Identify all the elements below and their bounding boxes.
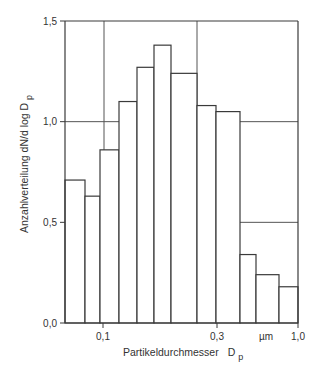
x-axis-title-text: Partikeldurchmesser — [123, 346, 219, 358]
y-tick-label: 0,0 — [43, 318, 57, 329]
svg-text:Partikeldurchmesser D: Partikeldurchmesser D p — [123, 346, 243, 362]
histogram-chart: 0,00,51,01,5 0,10,31,0 µm Partikeldurchm… — [0, 0, 323, 378]
histogram-bar — [197, 106, 216, 323]
y-axis-title: Anzahlverteilung dN/d log D p — [18, 95, 34, 233]
x-tick-label: 0,3 — [210, 331, 224, 342]
histogram-bar — [279, 287, 298, 323]
histogram-bar — [65, 180, 85, 323]
histogram-bars — [65, 45, 298, 323]
x-axis: 0,10,31,0 — [96, 323, 305, 342]
y-axis-title-text: Anzahlverteilung dN/d log D — [18, 102, 30, 233]
x-axis-unit-label: µm — [259, 331, 273, 342]
y-tick-label: 1,0 — [43, 116, 57, 127]
histogram-bar — [256, 275, 279, 323]
y-tick-label: 1,5 — [43, 16, 57, 27]
x-tick-label: 0,1 — [96, 331, 110, 342]
histogram-bar — [119, 102, 137, 323]
histogram-bar — [137, 67, 154, 323]
x-axis-title-subscript: p — [238, 352, 243, 362]
y-tick-label: 0,5 — [43, 217, 57, 228]
histogram-bar — [216, 112, 240, 323]
histogram-bar — [240, 255, 256, 323]
x-axis-title-symbol: D — [228, 346, 236, 358]
histogram-bar — [85, 196, 100, 323]
y-axis: 0,00,51,01,5 — [43, 16, 65, 329]
histogram-bar — [100, 150, 119, 323]
x-axis-title: Partikeldurchmesser D p — [123, 346, 243, 362]
x-tick-label: 1,0 — [291, 331, 305, 342]
histogram-bar — [154, 45, 171, 323]
y-axis-title-subscript: p — [24, 95, 34, 100]
svg-text:Anzahlverteilung dN/d log D: Anzahlverteilung dN/d log D p — [18, 95, 34, 233]
chart-canvas: 0,00,51,01,5 0,10,31,0 µm Partikeldurchm… — [0, 0, 323, 378]
histogram-bar — [171, 73, 197, 323]
